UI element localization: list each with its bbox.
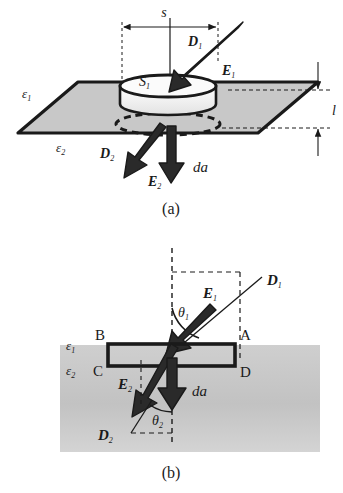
label-D2-a: D2 xyxy=(99,146,114,163)
label-corner-A: A xyxy=(240,327,251,343)
label-E2-a: E2 xyxy=(147,174,161,191)
label-epsilon-1-b: ε1 xyxy=(66,338,75,355)
physics-figure: s S1 ε1 ε2 D1 E1 xyxy=(0,0,343,493)
label-da-b: da xyxy=(192,383,207,399)
label-epsilon-2-a: ε2 xyxy=(56,140,65,157)
label-E1-b: E1 xyxy=(202,285,217,303)
panel-b-diagram: D1 θ1 E1 B A C D ε1 ε2 E xyxy=(0,230,343,493)
label-corner-C: C xyxy=(93,363,103,379)
label-D1-a: D1 xyxy=(187,34,202,51)
label-da-a: da xyxy=(193,159,208,175)
pillbox-top-disc xyxy=(120,75,216,97)
label-l: l xyxy=(332,103,336,118)
label-corner-D: D xyxy=(240,364,251,380)
label-theta1: θ1 xyxy=(178,305,189,322)
label-s: s xyxy=(161,5,167,20)
label-D1-b: D1 xyxy=(266,272,282,290)
label-E1-a: E1 xyxy=(221,63,235,80)
label-epsilon-1-a: ε1 xyxy=(22,86,31,103)
label-corner-B: B xyxy=(95,327,105,343)
caption-panel-a: (a) xyxy=(162,200,180,218)
caption-panel-b: (b) xyxy=(162,464,181,482)
panel-a-diagram: s S1 ε1 ε2 D1 E1 xyxy=(0,0,343,230)
